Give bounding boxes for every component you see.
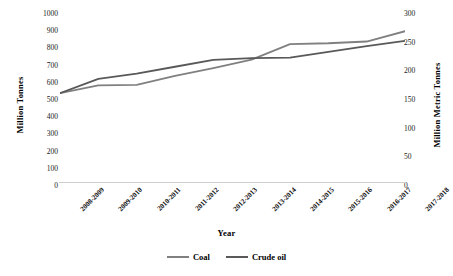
line-chart: Million Tonnes Million Metric Tonnes Yea… <box>0 0 453 276</box>
legend-item-coal[interactable]: Coal <box>167 252 210 262</box>
x-axis-tick-label: 2012-2013 <box>232 186 259 213</box>
x-axis-tick-label: 2008-2009 <box>79 186 106 213</box>
legend-swatch-icon <box>226 256 248 258</box>
x-axis-tick-label: 2013-2014 <box>271 186 298 213</box>
x-axis-tick-label: 2015-2016 <box>347 186 374 213</box>
legend-label: Crude oil <box>252 252 286 262</box>
x-axis-tick-label: 2011-2012 <box>194 186 221 213</box>
chart-legend: CoalCrude oil <box>0 252 453 262</box>
x-axis-tick-label: 2016-2017 <box>386 186 413 213</box>
legend-item-crude-oil[interactable]: Crude oil <box>226 252 286 262</box>
x-axis-tick-label: 2010-2011 <box>155 186 182 213</box>
x-axis-ticks: 2008-20092009-20102010-20112011-20122012… <box>0 0 453 276</box>
x-axis-tick-label: 2009-2010 <box>117 186 144 213</box>
x-axis-tick-label: 2014-2015 <box>309 186 336 213</box>
x-axis-tick-label: 2017-2018 <box>424 186 451 213</box>
legend-swatch-icon <box>167 256 189 258</box>
legend-label: Coal <box>193 252 210 262</box>
